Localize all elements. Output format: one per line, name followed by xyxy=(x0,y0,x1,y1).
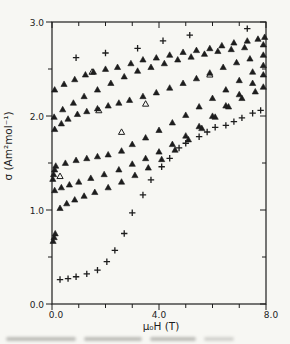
data-point-isotherm-8-plus-sigmoid xyxy=(140,192,146,198)
data-point-isotherm-8-plus-sigmoid xyxy=(257,107,263,113)
data-point-isotherm-8-plus-sigmoid xyxy=(148,177,154,183)
data-point-isotherm-3-triangles xyxy=(188,54,194,60)
data-point-isotherm-7-triangles xyxy=(92,189,98,195)
data-point-isotherm-4-triangles xyxy=(247,56,253,62)
data-point-isotherm-4-triangles xyxy=(153,89,159,95)
data-point-isotherm-2-triangles xyxy=(244,38,250,44)
data-point-isotherm-2-triangles xyxy=(219,42,225,48)
data-point-isotherm-2-triangles xyxy=(140,57,146,63)
data-point-isotherm-8-plus-sigmoid xyxy=(112,247,118,253)
data-point-isotherm-4-triangles xyxy=(105,103,111,109)
data-point-isotherm-2-triangles xyxy=(153,55,159,61)
data-point-isotherm-7-triangles xyxy=(72,197,78,203)
data-point-isotherm-2-triangles xyxy=(255,36,261,42)
y-tick-label: 0.0 xyxy=(30,300,45,310)
data-point-isotherm-7-triangles xyxy=(145,165,151,171)
data-point-isotherm-6-triangles xyxy=(76,179,82,185)
data-point-isotherm-7-triangles xyxy=(64,200,70,206)
data-point-isotherm-3-triangles xyxy=(81,93,87,99)
data-point-isotherm-6-triangles xyxy=(58,184,64,190)
x-tick-label: 0.0 xyxy=(49,310,64,320)
data-point-isotherm-8-plus-sigmoid xyxy=(223,122,229,128)
data-point-isotherm-2-triangles xyxy=(231,40,237,46)
data-point-isotherm-1-plus-high xyxy=(244,25,250,31)
figure-container: 0.04.08.00.01.02.03.0 μ₀H (T) σ (Am²mol⁻… xyxy=(0,0,290,344)
data-point-isotherm-3-triangles xyxy=(135,68,141,74)
data-point-isotherm-3-triangles xyxy=(148,64,154,70)
data-point-isotherm-3-triangles xyxy=(215,48,221,54)
data-point-isotherm-5-triangles xyxy=(73,157,79,163)
data-point-isotherm-2-triangles xyxy=(61,81,67,87)
data-point-isotherm-8-plus-sigmoid xyxy=(104,259,110,265)
data-point-isotherm-3-triangles xyxy=(60,106,66,112)
data-point-open-triangle-points xyxy=(143,101,149,107)
data-point-isotherm-4-triangles xyxy=(58,120,64,126)
x-axis-title: μ₀H (T) xyxy=(143,320,180,332)
data-point-isotherm-8-plus-sigmoid xyxy=(129,210,135,216)
data-point-isotherm-2-triangles xyxy=(180,49,186,55)
data-point-isotherm-1-plus-high xyxy=(160,38,166,44)
data-point-isotherm-7-triangles xyxy=(159,156,165,162)
data-point-isotherm-7-triangles xyxy=(57,205,63,211)
data-point-isotherm-3-triangles xyxy=(94,87,100,93)
data-point-isotherm-7-triangles xyxy=(132,172,138,178)
data-point-isotherm-7-triangles xyxy=(81,193,87,199)
data-point-isotherm-2-triangles xyxy=(82,72,88,78)
data-point-isotherm-4-triangles xyxy=(116,100,122,106)
data-point-isotherm-8-plus-sigmoid xyxy=(204,129,210,135)
data-point-isotherm-8-plus-sigmoid xyxy=(249,110,255,116)
data-point-isotherm-6-triangles xyxy=(143,155,149,161)
data-point-isotherm-5-triangles xyxy=(105,151,111,157)
data-point-isotherm-4-triangles xyxy=(167,85,173,91)
data-point-isotherm-8-plus-sigmoid xyxy=(57,276,63,282)
data-point-isotherm-2-triangles xyxy=(72,76,78,82)
data-point-isotherm-8-plus-sigmoid xyxy=(231,118,237,124)
data-point-isotherm-6-triangles xyxy=(169,141,175,147)
data-point-isotherm-4-triangles xyxy=(84,108,90,114)
data-point-isotherm-5-triangles xyxy=(156,127,162,133)
data-point-isotherm-7-triangles xyxy=(118,179,124,185)
data-point-isotherm-3-triangles xyxy=(175,57,181,63)
data-point-open-triangle-points xyxy=(118,129,124,135)
data-point-isotherm-2-triangles xyxy=(114,64,120,70)
data-point-isotherm-8-plus-sigmoid xyxy=(94,267,100,273)
magnetization-chart: 0.04.08.00.01.02.03.0 μ₀H (T) σ (Am²mol⁻… xyxy=(0,0,290,344)
data-point-isotherm-4-triangles xyxy=(180,80,186,86)
data-point-isotherm-5-triangles xyxy=(129,141,135,147)
data-point-isotherm-4-triangles xyxy=(126,97,132,103)
y-tick-label: 2.0 xyxy=(30,112,45,122)
data-point-isotherm-5-triangles xyxy=(143,135,149,141)
data-point-isotherm-2-triangles xyxy=(262,34,268,40)
data-point-isotherm-2-triangles xyxy=(207,45,213,51)
data-point-isotherm-6-triangles xyxy=(156,149,162,155)
data-point-isotherm-6-triangles xyxy=(66,182,72,188)
data-point-isotherm-8-plus-sigmoid xyxy=(158,164,164,170)
data-point-isotherm-5-triangles xyxy=(94,153,100,159)
data-point-isotherm-3-triangles xyxy=(108,80,114,86)
x-tick-label: 4.0 xyxy=(152,310,167,320)
data-point-isotherm-4-triangles xyxy=(65,116,71,122)
y-axis-title: σ (Am²mol⁻¹) xyxy=(2,111,14,180)
data-point-isotherm-6-triangles xyxy=(250,80,256,86)
data-point-isotherm-3-triangles xyxy=(228,46,234,52)
data-point-isotherm-4-triangles xyxy=(140,93,146,99)
data-point-isotherm-2-triangles xyxy=(167,52,173,58)
data-point-isotherm-7-triangles xyxy=(252,88,258,94)
data-point-isotherm-8-plus-sigmoid xyxy=(212,124,218,130)
data-point-isotherm-3-triangles xyxy=(201,51,207,57)
data-point-isotherm-1-plus-high xyxy=(102,50,108,56)
data-point-isotherm-8-plus-sigmoid xyxy=(239,115,245,121)
x-tick-label: 8.0 xyxy=(264,310,279,320)
data-point-isotherm-8-plus-sigmoid xyxy=(73,274,79,280)
data-point-isotherm-4-triangles xyxy=(233,59,239,65)
data-point-isotherm-5-triangles xyxy=(236,77,242,83)
data-point-isotherm-5-triangles xyxy=(53,163,59,169)
data-point-isotherm-5-triangles xyxy=(84,155,90,161)
data-point-isotherm-3-triangles xyxy=(242,44,248,50)
data-point-isotherm-8-plus-sigmoid xyxy=(121,230,127,236)
data-point-isotherm-7-triangles xyxy=(105,184,111,190)
data-point-isotherm-1-plus-high xyxy=(134,45,140,51)
y-tick-label: 1.0 xyxy=(30,206,45,216)
data-point-isotherm-8-plus-sigmoid xyxy=(84,271,90,277)
data-point-isotherm-8-plus-sigmoid xyxy=(196,133,202,139)
